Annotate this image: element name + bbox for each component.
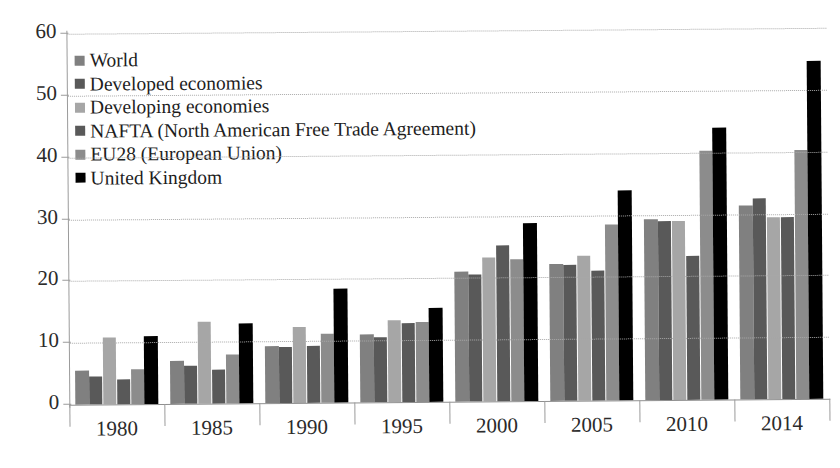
legend-label: Developing economies: [90, 96, 269, 117]
legend-swatch-icon: [75, 79, 85, 89]
x-axis-label-1985: 1985: [164, 415, 259, 441]
x-axis-label-2014: 2014: [734, 411, 829, 437]
bar-1985-united: [239, 324, 253, 404]
legend-swatch-icon: [76, 173, 86, 183]
y-tick-label: 50: [19, 81, 57, 106]
bar-1995-world: [360, 334, 374, 402]
bar-1990-world: [265, 346, 279, 403]
bar-2005-developed: [563, 265, 577, 401]
bar-1980-world: [75, 371, 88, 405]
bar-1985-nafta: [212, 370, 225, 404]
bar-2000-nafta: [496, 245, 510, 402]
bar-2005-nafta: [591, 271, 605, 401]
legend-swatch-icon: [75, 55, 85, 65]
y-tick-label: 60: [18, 19, 56, 44]
x-axis-label-1980: 1980: [69, 416, 164, 442]
y-tick-label: 10: [21, 328, 59, 353]
legend-item-3[interactable]: NAFTA (North American Free Trade Agreeme…: [75, 116, 505, 143]
bar-1995-developing: [388, 321, 402, 403]
bar-2005-world: [550, 264, 564, 401]
bar-2010-united: [713, 128, 728, 400]
bar-2000-united: [523, 223, 538, 401]
bar-2014-united: [807, 61, 823, 399]
y-tick-label: 30: [20, 204, 58, 229]
bar-1990-nafta: [307, 345, 321, 403]
legend-item-4[interactable]: EU28 (European Union): [75, 139, 505, 166]
y-axis: 0102030405060: [0, 0, 838, 3]
bar-2010-developed: [658, 221, 673, 400]
bar-1985-eu28: [226, 354, 240, 404]
x-axis-label-2005: 2005: [544, 412, 639, 438]
bar-2000-developing: [482, 257, 496, 401]
bar-chart: 0102030405060 19801985199019952000200520…: [0, 0, 840, 468]
x-axis-label-2000: 2000: [449, 413, 544, 439]
bar-1980-eu28: [131, 370, 144, 405]
bar-1990-eu28: [320, 333, 334, 402]
legend-swatch-icon: [75, 126, 85, 136]
bar-2005-eu28: [605, 224, 620, 400]
x-axis: 19801985199019952000200520102014: [0, 0, 838, 3]
x-axis-label-2010: 2010: [639, 412, 734, 438]
y-tick-label: 40: [19, 143, 57, 168]
bar-1990-united: [334, 288, 348, 402]
legend-label: EU28 (European Union): [90, 143, 282, 164]
x-axis-label-1990: 1990: [259, 415, 354, 441]
bar-2010-world: [644, 220, 659, 401]
bar-2014-developed: [753, 198, 768, 399]
legend-label: World: [90, 50, 138, 70]
bar-2000-eu28: [510, 259, 524, 401]
bar-2000-developed: [469, 275, 483, 402]
x-axis-tick: [829, 399, 830, 421]
bar-1980-nafta: [117, 380, 130, 405]
bar-2000-world: [455, 272, 469, 402]
legend-item-2[interactable]: Developing economies: [75, 92, 505, 119]
legend-label: NAFTA (North American Free Trade Agreeme…: [90, 118, 476, 141]
bar-1980-developing: [103, 337, 117, 404]
bar-1995-eu28: [415, 322, 429, 402]
legend-item-0[interactable]: World: [75, 45, 505, 72]
bar-1990-developing: [293, 327, 307, 403]
legend-swatch-icon: [75, 102, 85, 112]
bar-1985-developed: [184, 365, 197, 403]
bar-1980-united: [144, 336, 158, 404]
bar-1990-developed: [279, 347, 293, 403]
bar-2014-world: [739, 205, 754, 399]
chart-legend: WorldDeveloped economiesDeveloping econo…: [75, 45, 506, 189]
legend-label: United Kingdom: [90, 167, 222, 188]
bar-2005-united: [618, 190, 633, 400]
x-axis-label-1995: 1995: [354, 414, 449, 440]
bar-2014-developing: [767, 217, 782, 400]
legend-label: Developed economies: [90, 73, 263, 94]
bar-1985-developing: [198, 321, 212, 403]
y-tick-label: 0: [21, 390, 59, 415]
bar-2014-nafta: [781, 217, 796, 399]
bar-1985-world: [170, 361, 184, 404]
bar-1980-developed: [89, 376, 102, 405]
bar-2010-developing: [672, 221, 687, 400]
bar-1995-nafta: [402, 324, 416, 403]
bar-1995-developed: [374, 337, 388, 402]
bar-2010-nafta: [686, 256, 700, 400]
legend-item-5[interactable]: United Kingdom: [75, 163, 505, 190]
bar-1995-united: [429, 308, 443, 402]
y-tick-label: 20: [20, 266, 58, 291]
